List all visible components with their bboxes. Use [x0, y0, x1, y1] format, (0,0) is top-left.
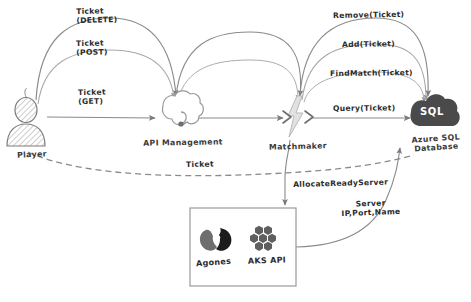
edge-ticket-delete-path	[36, 18, 176, 100]
lightning-bolt-icon	[283, 96, 313, 137]
edge-label-add-ticket: Add(Ticket)	[342, 40, 395, 50]
edge-ticket-get-path	[47, 117, 155, 118]
architecture-diagram: Ticket (DELETE) Ticket (POST) Ticket (GE…	[0, 0, 471, 302]
edge-apim-matchmaker-arc-outer	[176, 32, 301, 96]
edge-ticket-dashed-path	[28, 152, 414, 176]
edge-label-ticket-dashed: Ticket	[186, 161, 214, 170]
connector-layer	[0, 0, 471, 302]
edge-remove-ticket-path	[300, 18, 428, 96]
edge-label-ticket-post-line2: (POST)	[76, 48, 108, 57]
node-label-api-management: API Management	[136, 137, 230, 148]
edge-label-remove-ticket: Remove(Ticket)	[333, 11, 404, 21]
edge-label-ticket-delete: Ticket (DELETE)	[76, 7, 118, 25]
edge-label-ticket-delete-line2: (DELETE)	[76, 15, 117, 25]
edge-label-ticket-get: Ticket (GET)	[78, 89, 106, 106]
cloud-icon	[162, 91, 203, 127]
edge-label-ticket-get-line2: (GET)	[78, 97, 106, 106]
edge-label-ticket-post: Ticket (POST)	[76, 39, 108, 57]
edge-label-query-ticket: Query(Ticket)	[333, 104, 396, 114]
edge-label-server-details: Server IP,Port,Name	[341, 199, 401, 218]
edge-label-find-match-ticket: FindMatch(Ticket)	[330, 69, 413, 79]
cluster-item-label-aks-api: AKS API	[248, 255, 286, 265]
sql-badge-text: SQL	[420, 106, 444, 117]
